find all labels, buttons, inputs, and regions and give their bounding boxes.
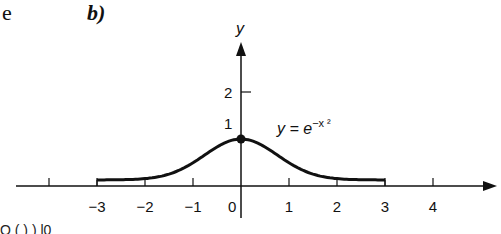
- bottom-fragment-text: Q ( ) ) l0: [0, 222, 51, 234]
- x-ticks: −3−2−101234: [49, 178, 437, 215]
- peak-point: [237, 135, 246, 144]
- curve-label: y = e−x ²: [276, 117, 331, 137]
- y-tick-label: 2: [224, 84, 232, 101]
- x-axis-arrow-icon: [483, 181, 497, 191]
- y-tick-label: 1: [224, 115, 232, 132]
- y-ticks: 12: [224, 84, 251, 132]
- chart-area: y −3−2−101234 12 y = e−x ²: [0, 0, 501, 234]
- x-tick-label: 3: [381, 198, 389, 215]
- x-tick-label: −1: [184, 198, 201, 215]
- x-tick-label: 1: [285, 198, 293, 215]
- x-tick-label: 4: [429, 198, 437, 215]
- x-tick-label: 0: [228, 198, 236, 215]
- y-axis-label: y: [235, 20, 245, 37]
- x-tick-label: −2: [136, 198, 153, 215]
- x-tick-label: 2: [333, 198, 341, 215]
- x-tick-label: −3: [88, 198, 105, 215]
- y-axis-arrow-icon: [236, 42, 246, 56]
